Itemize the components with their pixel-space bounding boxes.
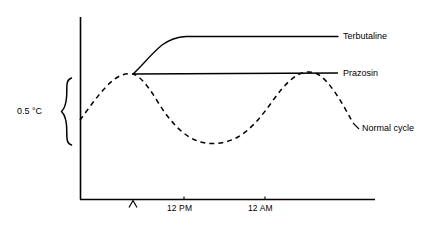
scale-annotation-label: 0.5 °C [17,107,42,116]
normal-cycle-leader-line [353,123,359,129]
series-line-normal-cycle [80,72,353,144]
series-line-terbutaline [133,37,338,75]
series-line-prazosin [133,73,338,74]
series-label-normal-cycle: Normal cycle [362,124,414,133]
series-label-terbutaline: Terbutaline [343,32,387,41]
x-tick-label-midnight: 12 AM [248,204,273,213]
scale-brace-icon [62,78,72,145]
x-tick-label-noon: 12 PM [167,204,192,213]
chart-figure: 0.5 °C 12 PM 12 AM Terbutaline Prazosin … [0,0,442,225]
series-label-prazosin: Prazosin [343,69,378,78]
caret-marker-icon [129,201,137,208]
